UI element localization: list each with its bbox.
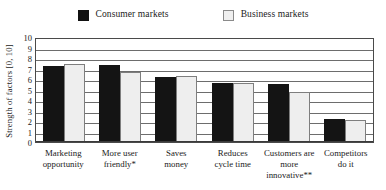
x-axis-label: More userfriendly* bbox=[92, 148, 149, 188]
bar-group bbox=[148, 39, 204, 142]
y-axis-ticks: 109876543210 bbox=[16, 33, 32, 149]
bar-group bbox=[261, 39, 317, 142]
bar-group bbox=[92, 39, 148, 142]
x-axis-label-line: Marketing bbox=[36, 148, 91, 159]
y-tick-label: 3 bbox=[16, 108, 32, 116]
x-axis-label-line: more innovative** bbox=[262, 159, 317, 181]
y-tick-label: 1 bbox=[16, 129, 32, 137]
bar-chart: Consumer markets Business markets Streng… bbox=[0, 0, 386, 190]
y-tick-label: 6 bbox=[16, 76, 32, 84]
y-tick-label: 0 bbox=[16, 139, 32, 147]
bar-consumer bbox=[324, 119, 345, 142]
bar-business bbox=[289, 92, 310, 142]
bar-business bbox=[345, 120, 366, 142]
y-tick-label: 2 bbox=[16, 118, 32, 126]
x-axis-label-line: More user bbox=[93, 148, 148, 159]
x-axis-label-line: cycle time bbox=[206, 159, 261, 170]
x-axis-label-line: Reduces bbox=[206, 148, 261, 159]
x-axis-label: Marketingopportunity bbox=[35, 148, 92, 188]
legend-item-consumer-markets: Consumer markets bbox=[78, 10, 169, 21]
bars-layer bbox=[36, 39, 373, 142]
legend-label-business: Business markets bbox=[241, 10, 309, 20]
x-axis-labels: MarketingopportunityMore userfriendly*Sa… bbox=[35, 148, 374, 188]
y-tick-label: 4 bbox=[16, 97, 32, 105]
bar-group bbox=[204, 39, 260, 142]
bar-consumer bbox=[268, 84, 289, 142]
x-axis-label-line: opportunity bbox=[36, 159, 91, 170]
x-axis-label-line: Saves bbox=[149, 148, 204, 159]
bar-business bbox=[233, 83, 254, 142]
x-axis-label-line: do it bbox=[319, 159, 374, 170]
legend-label-consumer: Consumer markets bbox=[96, 10, 169, 20]
bar-group bbox=[36, 39, 92, 142]
y-tick-label: 9 bbox=[16, 45, 32, 53]
chart-legend: Consumer markets Business markets bbox=[0, 4, 386, 26]
x-axis-label-line: money bbox=[149, 159, 204, 170]
y-tick-label: 10 bbox=[16, 34, 32, 42]
bar-group bbox=[317, 39, 373, 142]
bar-business bbox=[120, 72, 141, 142]
bar-consumer bbox=[43, 66, 64, 142]
legend-item-business-markets: Business markets bbox=[223, 10, 309, 21]
legend-swatch-business-icon bbox=[223, 10, 234, 21]
bar-consumer bbox=[212, 83, 233, 142]
x-axis-label-line: Competitors bbox=[319, 148, 374, 159]
y-tick-label: 8 bbox=[16, 55, 32, 63]
bar-consumer bbox=[99, 65, 120, 142]
x-axis-line bbox=[36, 141, 373, 142]
y-tick-label: 7 bbox=[16, 66, 32, 74]
bar-business bbox=[64, 64, 85, 142]
x-axis-label: Customers aremore innovative** bbox=[261, 148, 318, 188]
x-axis-label: Competitorsdo it bbox=[318, 148, 375, 188]
y-axis-title: Strength of factors [0, 10] bbox=[2, 38, 16, 144]
x-axis-label: Savesmoney bbox=[148, 148, 205, 188]
x-axis-label-line: Customers are bbox=[262, 148, 317, 159]
legend-swatch-consumer-icon bbox=[78, 10, 89, 21]
bar-consumer bbox=[155, 77, 176, 142]
plot-area bbox=[35, 38, 374, 143]
x-axis-label: Reducescycle time bbox=[205, 148, 262, 188]
y-axis-title-text: Strength of factors [0, 10] bbox=[4, 44, 14, 137]
y-tick-label: 5 bbox=[16, 87, 32, 95]
x-axis-label-line: friendly* bbox=[93, 159, 148, 170]
bar-business bbox=[176, 76, 197, 142]
